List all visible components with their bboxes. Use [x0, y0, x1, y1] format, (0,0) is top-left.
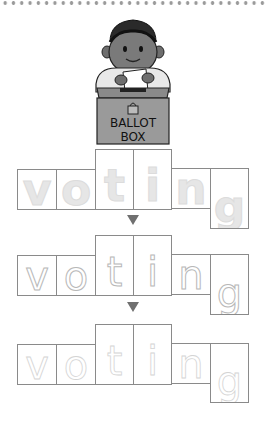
letter-box-n: n	[171, 168, 211, 209]
letter-g: g	[217, 273, 242, 313]
letter-o: o	[64, 345, 88, 385]
letter-t: t	[107, 341, 123, 381]
letter-box-i: i	[133, 235, 172, 296]
down-arrow-icon	[127, 302, 139, 312]
letter-o: o	[64, 256, 88, 296]
letter-v: v	[23, 169, 52, 210]
ballot-label-line1: BALLOT	[110, 116, 157, 130]
letter-box-g: g	[210, 343, 249, 403]
letter-box-o: o	[56, 344, 96, 385]
letter-n: n	[178, 255, 203, 295]
letter-box-t: t	[95, 324, 134, 385]
letter-box-i: i	[133, 149, 172, 210]
letter-i: i	[145, 164, 160, 208]
letter-i: i	[147, 341, 158, 381]
ballot-box-illustration: BALLOT BOX	[88, 14, 178, 146]
letter-box-t: t	[95, 235, 134, 296]
letter-box-t: t	[95, 149, 134, 210]
letter-box-v: v	[17, 255, 57, 296]
letter-box-o: o	[56, 169, 96, 210]
letter-i: i	[147, 252, 158, 292]
letter-o: o	[61, 169, 91, 210]
letter-n: n	[178, 344, 203, 384]
letter-box-n: n	[171, 343, 211, 384]
letter-box-v: v	[17, 344, 57, 385]
letter-box-o: o	[56, 255, 96, 296]
letter-g: g	[217, 361, 242, 401]
letter-t: t	[104, 164, 125, 208]
letter-box-v: v	[17, 169, 57, 210]
dotted-top-border	[0, 0, 265, 6]
letter-box-g: g	[210, 168, 249, 229]
letter-n: n	[175, 168, 206, 209]
letter-g: g	[214, 185, 246, 229]
down-arrow-icon	[127, 215, 139, 225]
letter-box-i: i	[133, 324, 172, 385]
letter-t: t	[107, 252, 123, 292]
letter-v: v	[25, 345, 49, 385]
letter-box-g: g	[210, 254, 249, 315]
letter-v: v	[25, 256, 49, 296]
letter-box-n: n	[171, 254, 211, 295]
ballot-label-line2: BOX	[121, 130, 146, 144]
